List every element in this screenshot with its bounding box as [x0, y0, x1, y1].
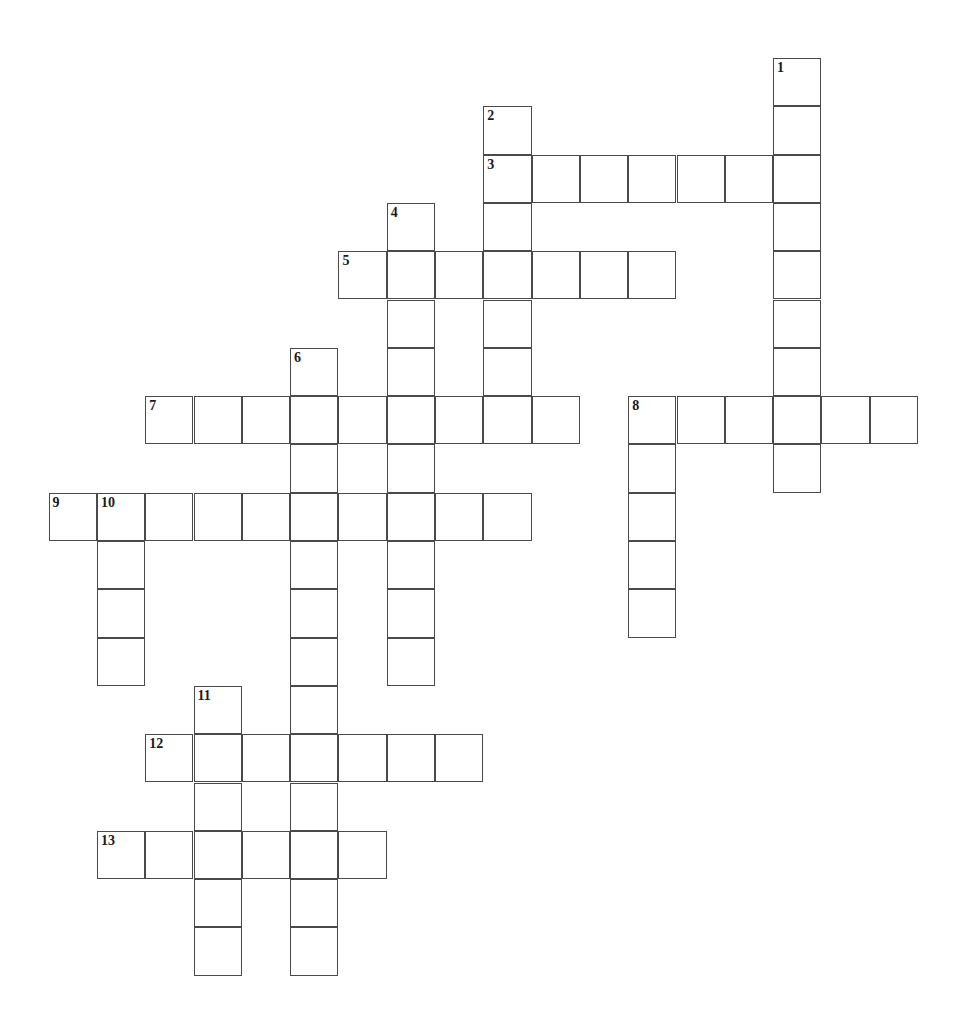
crossword-cell[interactable] [290, 686, 338, 734]
crossword-cell[interactable] [338, 493, 386, 541]
crossword-cell[interactable] [290, 396, 338, 444]
crossword-cell[interactable] [483, 106, 531, 154]
crossword-cell[interactable] [290, 444, 338, 492]
crossword-cell[interactable] [628, 444, 676, 492]
crossword-cell[interactable] [387, 444, 435, 492]
crossword-cell[interactable] [97, 638, 145, 686]
crossword-cell[interactable] [773, 444, 821, 492]
crossword-cell[interactable] [387, 589, 435, 637]
crossword-cell[interactable] [194, 783, 242, 831]
crossword-cell[interactable] [145, 396, 193, 444]
crossword-cell[interactable] [338, 396, 386, 444]
crossword-cell[interactable] [773, 155, 821, 203]
crossword-cell[interactable] [290, 589, 338, 637]
crossword-cell[interactable] [290, 348, 338, 396]
crossword-cell[interactable] [194, 493, 242, 541]
crossword-cell[interactable] [580, 251, 628, 299]
crossword-cell[interactable] [194, 396, 242, 444]
crossword-cell[interactable] [145, 493, 193, 541]
crossword-cell[interactable] [773, 58, 821, 106]
crossword-cell[interactable] [194, 927, 242, 975]
crossword-cell[interactable] [242, 493, 290, 541]
crossword-cell[interactable] [387, 203, 435, 251]
crossword-cell[interactable] [338, 251, 386, 299]
crossword-cell[interactable] [338, 831, 386, 879]
crossword-cell[interactable] [387, 348, 435, 396]
crossword-cell[interactable] [97, 831, 145, 879]
crossword-cell[interactable] [870, 396, 918, 444]
crossword-cell[interactable] [773, 396, 821, 444]
crossword-cell[interactable] [290, 783, 338, 831]
crossword-cell[interactable] [97, 541, 145, 589]
crossword-cell[interactable] [628, 541, 676, 589]
crossword-grid[interactable]: 12345678910111213 [0, 0, 971, 1034]
crossword-cell[interactable] [290, 879, 338, 927]
crossword-cell[interactable] [290, 493, 338, 541]
crossword-cell[interactable] [194, 879, 242, 927]
crossword-cell[interactable] [387, 638, 435, 686]
crossword-cell[interactable] [338, 734, 386, 782]
crossword-cell[interactable] [483, 155, 531, 203]
crossword-cell[interactable] [290, 831, 338, 879]
crossword-cell[interactable] [387, 734, 435, 782]
crossword-cell[interactable] [387, 396, 435, 444]
crossword-cell[interactable] [387, 300, 435, 348]
crossword-cell[interactable] [628, 589, 676, 637]
crossword-cell[interactable] [290, 734, 338, 782]
crossword-cell[interactable] [145, 734, 193, 782]
crossword-puzzle: 12345678910111213 [0, 0, 971, 1034]
crossword-cell[interactable] [532, 155, 580, 203]
crossword-cell[interactable] [677, 155, 725, 203]
crossword-cell[interactable] [483, 251, 531, 299]
crossword-cell[interactable] [242, 734, 290, 782]
crossword-cell[interactable] [290, 927, 338, 975]
crossword-cell[interactable] [773, 251, 821, 299]
crossword-cell[interactable] [532, 396, 580, 444]
crossword-cell[interactable] [145, 831, 193, 879]
crossword-cell[interactable] [194, 686, 242, 734]
crossword-cell[interactable] [532, 251, 580, 299]
crossword-cell[interactable] [628, 493, 676, 541]
crossword-cell[interactable] [483, 300, 531, 348]
crossword-cell[interactable] [628, 396, 676, 444]
crossword-cell[interactable] [483, 348, 531, 396]
crossword-cell[interactable] [242, 831, 290, 879]
crossword-cell[interactable] [677, 396, 725, 444]
crossword-cell[interactable] [435, 734, 483, 782]
crossword-cell[interactable] [773, 348, 821, 396]
crossword-cell[interactable] [97, 493, 145, 541]
crossword-cell[interactable] [290, 638, 338, 686]
crossword-cell[interactable] [194, 831, 242, 879]
crossword-cell[interactable] [49, 493, 97, 541]
crossword-cell[interactable] [242, 396, 290, 444]
crossword-cell[interactable] [773, 203, 821, 251]
crossword-cell[interactable] [435, 493, 483, 541]
crossword-cell[interactable] [387, 541, 435, 589]
crossword-cell[interactable] [483, 493, 531, 541]
crossword-cell[interactable] [194, 734, 242, 782]
crossword-cell[interactable] [483, 203, 531, 251]
crossword-cell[interactable] [773, 106, 821, 154]
crossword-cell[interactable] [628, 251, 676, 299]
crossword-cell[interactable] [725, 396, 773, 444]
crossword-cell[interactable] [821, 396, 869, 444]
crossword-cell[interactable] [773, 300, 821, 348]
crossword-cell[interactable] [580, 155, 628, 203]
crossword-cell[interactable] [290, 541, 338, 589]
crossword-cell[interactable] [435, 251, 483, 299]
crossword-cell[interactable] [97, 589, 145, 637]
crossword-cell[interactable] [435, 396, 483, 444]
crossword-cell[interactable] [725, 155, 773, 203]
crossword-cell[interactable] [387, 493, 435, 541]
crossword-cell[interactable] [387, 251, 435, 299]
crossword-cell[interactable] [628, 155, 676, 203]
crossword-cell[interactable] [483, 396, 531, 444]
